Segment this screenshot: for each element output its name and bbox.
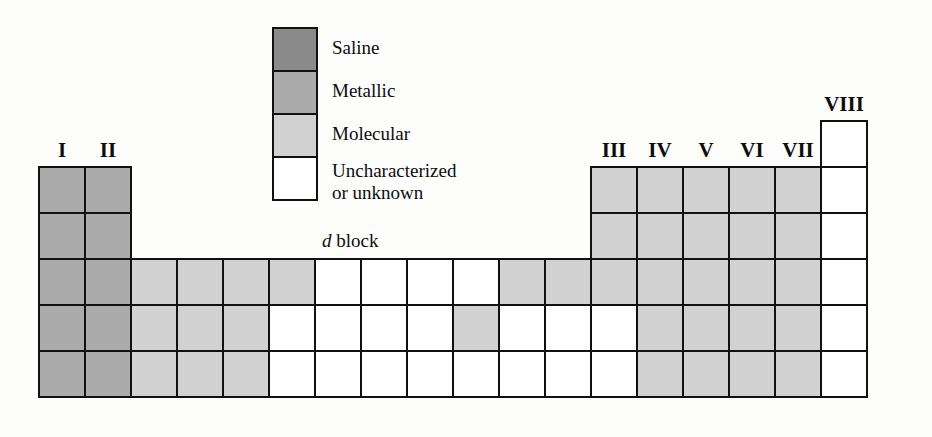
grid-gap (130, 120, 178, 168)
element-cell-metallic[interactable] (84, 350, 132, 398)
element-cell-uncharacterized[interactable] (452, 350, 500, 398)
element-cell-uncharacterized[interactable] (406, 258, 454, 306)
legend-swatch-saline (272, 27, 318, 72)
grid-gap (452, 166, 500, 214)
grid-gap (314, 120, 362, 168)
grid-gap (360, 120, 408, 168)
element-cell-uncharacterized[interactable] (498, 350, 546, 398)
element-cell-metallic[interactable] (84, 304, 132, 352)
element-cell-molecular[interactable] (774, 212, 822, 260)
table-row (38, 212, 866, 260)
element-cell-molecular[interactable] (774, 258, 822, 306)
element-cell-molecular[interactable] (636, 166, 684, 214)
element-cell-metallic[interactable] (84, 212, 132, 260)
grid-gap (176, 212, 224, 260)
element-cell-molecular[interactable] (728, 258, 776, 306)
element-cell-uncharacterized[interactable] (268, 304, 316, 352)
table-row (38, 166, 866, 214)
element-cell-uncharacterized[interactable] (820, 304, 868, 352)
periodic-table-grid (38, 120, 866, 396)
element-cell-metallic[interactable] (38, 304, 86, 352)
element-cell-uncharacterized[interactable] (314, 304, 362, 352)
element-cell-molecular[interactable] (682, 258, 730, 306)
element-cell-uncharacterized[interactable] (360, 350, 408, 398)
grid-gap (544, 166, 592, 214)
element-cell-molecular[interactable] (590, 258, 638, 306)
element-cell-uncharacterized[interactable] (314, 350, 362, 398)
element-cell-molecular[interactable] (728, 304, 776, 352)
element-cell-molecular[interactable] (774, 304, 822, 352)
element-cell-uncharacterized[interactable] (544, 304, 592, 352)
element-cell-molecular[interactable] (590, 212, 638, 260)
element-cell-metallic[interactable] (38, 350, 86, 398)
grid-gap (452, 120, 500, 168)
element-cell-metallic[interactable] (38, 212, 86, 260)
grid-gap (84, 120, 132, 168)
element-cell-uncharacterized[interactable] (360, 258, 408, 306)
grid-gap (360, 166, 408, 214)
element-cell-molecular[interactable] (682, 212, 730, 260)
element-cell-uncharacterized[interactable] (820, 212, 868, 260)
element-cell-metallic[interactable] (84, 166, 132, 214)
element-cell-molecular[interactable] (176, 258, 224, 306)
element-cell-molecular[interactable] (176, 350, 224, 398)
element-cell-uncharacterized[interactable] (544, 350, 592, 398)
grid-gap (130, 166, 178, 214)
grid-gap (268, 120, 316, 168)
element-cell-molecular[interactable] (498, 258, 546, 306)
legend-item: Saline (272, 27, 456, 70)
grid-gap (314, 212, 362, 260)
element-cell-molecular[interactable] (590, 166, 638, 214)
element-cell-molecular[interactable] (774, 350, 822, 398)
element-cell-molecular[interactable] (728, 166, 776, 214)
element-cell-uncharacterized[interactable] (590, 304, 638, 352)
grid-gap (268, 166, 316, 214)
element-cell-molecular[interactable] (636, 258, 684, 306)
grid-gap (544, 212, 592, 260)
element-cell-uncharacterized[interactable] (820, 350, 868, 398)
figure-canvas: SalineMetallicMolecularUncharacterized o… (0, 0, 932, 437)
element-cell-uncharacterized[interactable] (314, 258, 362, 306)
element-cell-molecular[interactable] (636, 304, 684, 352)
grid-gap (728, 120, 776, 168)
element-cell-molecular[interactable] (222, 258, 270, 306)
element-cell-metallic[interactable] (38, 258, 86, 306)
grid-gap (590, 120, 638, 168)
element-cell-molecular[interactable] (682, 304, 730, 352)
grid-gap (498, 212, 546, 260)
element-cell-molecular[interactable] (774, 166, 822, 214)
element-cell-uncharacterized[interactable] (406, 304, 454, 352)
element-cell-uncharacterized[interactable] (498, 304, 546, 352)
grid-gap (406, 120, 454, 168)
element-cell-molecular[interactable] (636, 212, 684, 260)
grid-gap (176, 120, 224, 168)
element-cell-molecular[interactable] (130, 258, 178, 306)
element-cell-molecular[interactable] (544, 258, 592, 306)
element-cell-uncharacterized[interactable] (820, 166, 868, 214)
grid-gap (130, 212, 178, 260)
element-cell-molecular[interactable] (728, 350, 776, 398)
element-cell-molecular[interactable] (636, 350, 684, 398)
element-cell-metallic[interactable] (38, 166, 86, 214)
element-cell-uncharacterized[interactable] (360, 304, 408, 352)
element-cell-uncharacterized[interactable] (820, 120, 868, 168)
element-cell-molecular[interactable] (222, 304, 270, 352)
element-cell-uncharacterized[interactable] (452, 258, 500, 306)
element-cell-uncharacterized[interactable] (590, 350, 638, 398)
element-cell-molecular[interactable] (682, 350, 730, 398)
element-cell-molecular[interactable] (130, 350, 178, 398)
element-cell-uncharacterized[interactable] (406, 350, 454, 398)
element-cell-molecular[interactable] (222, 350, 270, 398)
element-cell-molecular[interactable] (682, 166, 730, 214)
element-cell-uncharacterized[interactable] (820, 258, 868, 306)
grid-gap (222, 166, 270, 214)
element-cell-metallic[interactable] (84, 258, 132, 306)
element-cell-uncharacterized[interactable] (268, 350, 316, 398)
element-cell-molecular[interactable] (268, 258, 316, 306)
legend-label: Metallic (332, 70, 395, 102)
element-cell-molecular[interactable] (130, 304, 178, 352)
element-cell-molecular[interactable] (452, 304, 500, 352)
grid-gap (452, 212, 500, 260)
element-cell-molecular[interactable] (728, 212, 776, 260)
element-cell-molecular[interactable] (176, 304, 224, 352)
